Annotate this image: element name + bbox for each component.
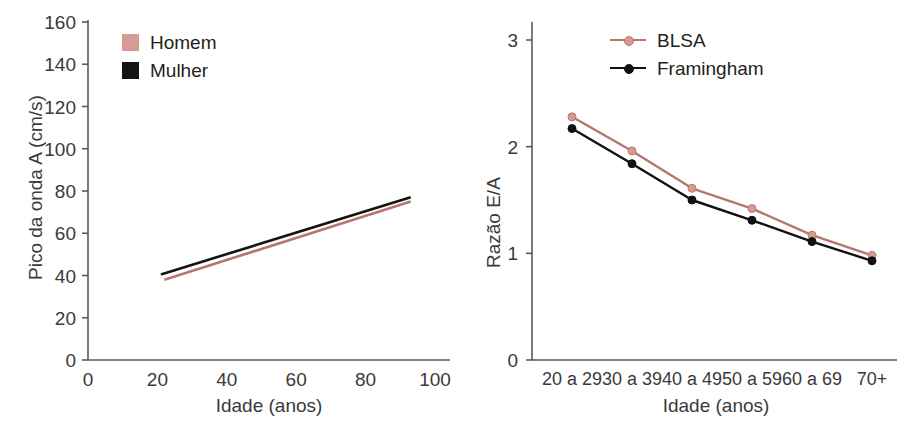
legend-dot-icon — [624, 36, 634, 46]
right-y-tick-label-3: 3 — [474, 31, 518, 50]
legend-swatch-icon — [122, 62, 139, 79]
right-marker-blsa-0 — [568, 113, 576, 121]
left-y-tick-label-1: 20 — [20, 308, 76, 327]
right-legend-item-1: Framingham — [610, 54, 764, 82]
figure-two-panel-chart: 020406080100120140160 020406080100 Pico … — [0, 0, 897, 422]
legend-line-marker-icon — [610, 61, 646, 75]
right-marker-blsa-2 — [688, 184, 696, 192]
right-x-tick-label-0: 20 a 29 — [542, 370, 602, 388]
right-series-line-blsa — [572, 117, 872, 256]
right-y-axis-title: Razão E/A — [484, 177, 503, 268]
right-marker-framingham-1 — [628, 160, 636, 168]
left-y-tick-label-0: 0 — [20, 351, 76, 370]
left-x-tick-label-3: 60 — [286, 370, 307, 389]
left-x-tick-label-0: 0 — [83, 370, 94, 389]
right-x-tick-label-2: 40 a 49 — [662, 370, 722, 388]
left-x-axis-title: Idade (anos) — [216, 396, 323, 415]
right-x-tick-label-1: 30 a 39 — [602, 370, 662, 388]
right-legend-label-1: Framingham — [657, 59, 764, 78]
left-y-axis-title: Pico da onda A (cm/s) — [26, 95, 45, 280]
right-legend-label-0: BLSA — [657, 31, 706, 50]
left-x-tick-label-4: 80 — [355, 370, 376, 389]
right-x-tick-label-4: 60 a 69 — [782, 370, 842, 388]
right-marker-framingham-2 — [688, 196, 696, 204]
left-series-line-mulher — [161, 197, 411, 274]
left-x-tick-label-5: 100 — [419, 370, 451, 389]
left-y-tick-label-8: 160 — [20, 13, 76, 32]
left-legend: HomemMulher — [122, 28, 217, 84]
left-y-tick-label-7: 140 — [20, 55, 76, 74]
right-y-tick-label-2: 2 — [474, 137, 518, 156]
right-series-group — [568, 113, 876, 265]
right-y-tick-label-0: 0 — [474, 351, 518, 370]
right-marker-blsa-1 — [628, 147, 636, 155]
right-legend: BLSAFramingham — [610, 26, 764, 82]
left-legend-item-1: Mulher — [122, 56, 217, 84]
legend-swatch-icon — [122, 34, 139, 51]
left-y-tick-marks — [82, 22, 88, 360]
left-legend-label-0: Homem — [150, 33, 217, 52]
right-x-tick-label-3: 50 a 59 — [722, 370, 782, 388]
right-x-axis-title: Idade (anos) — [663, 396, 770, 415]
right-x-tick-label-5: 70+ — [857, 370, 888, 388]
right-marker-framingham-3 — [748, 216, 756, 224]
right-marker-framingham-5 — [868, 257, 876, 265]
right-y-tick-marks — [526, 40, 532, 360]
chart-panel-right: 0123 20 a 2930 a 3940 a 4950 a 5960 a 69… — [460, 0, 897, 422]
left-legend-item-0: Homem — [122, 28, 217, 56]
chart-panel-left: 020406080100120140160 020406080100 Pico … — [0, 0, 460, 422]
legend-line-marker-icon — [610, 33, 646, 47]
right-legend-item-0: BLSA — [610, 26, 764, 54]
right-marker-blsa-3 — [748, 205, 756, 213]
right-marker-framingham-4 — [808, 238, 816, 246]
left-legend-label-1: Mulher — [150, 61, 208, 80]
left-x-tick-label-2: 40 — [216, 370, 237, 389]
left-series-line-homem — [164, 202, 410, 280]
left-x-tick-label-1: 20 — [147, 370, 168, 389]
legend-dot-icon — [624, 64, 634, 74]
right-marker-framingham-0 — [568, 125, 576, 133]
